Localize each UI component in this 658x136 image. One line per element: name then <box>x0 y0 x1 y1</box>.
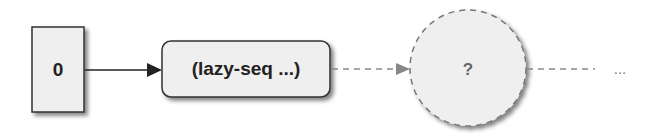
lazy-seq-node-label: (lazy-seq ...) <box>162 58 330 80</box>
rest-ellipsis: ... <box>605 60 635 77</box>
unrealized-node-label: ? <box>438 60 498 80</box>
arrowhead-icon <box>396 63 410 75</box>
head-node-label: 0 <box>32 59 84 81</box>
arrowhead-icon <box>147 63 162 77</box>
